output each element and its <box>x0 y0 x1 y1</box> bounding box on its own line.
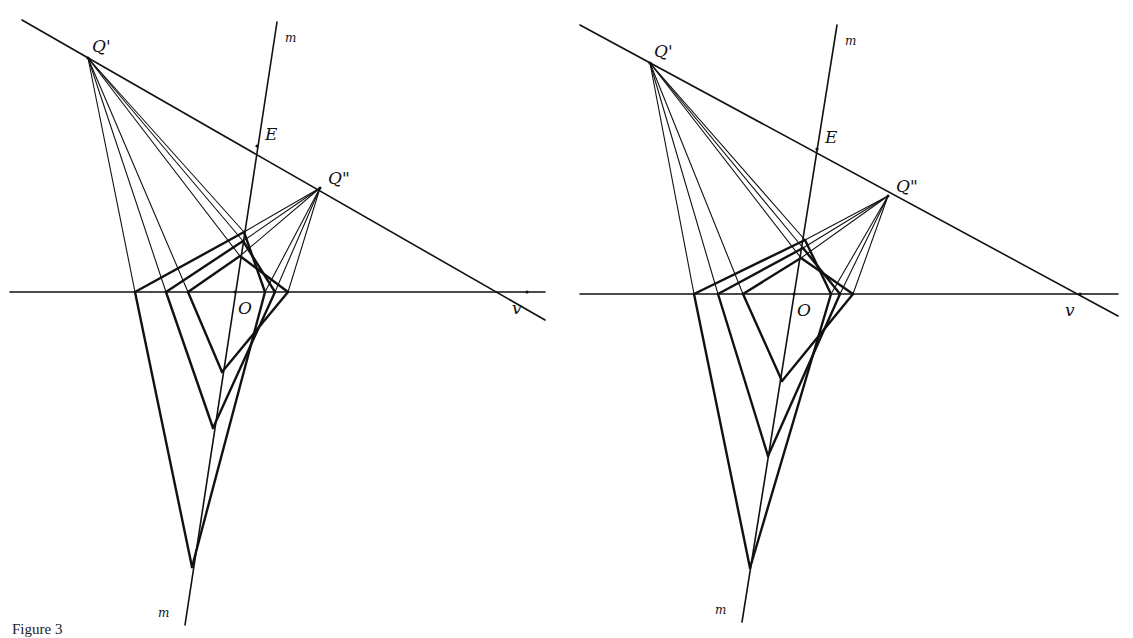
lower-edge <box>694 294 750 568</box>
ray-q1-upper <box>650 63 801 258</box>
square-edge <box>135 232 244 292</box>
figure-caption: Figure 3 <box>12 621 62 638</box>
lower-edge <box>743 294 782 381</box>
label-v: v <box>1065 300 1075 320</box>
label-e: E <box>264 124 278 144</box>
ray-q1-upper <box>88 58 244 232</box>
square-edge <box>243 241 275 292</box>
label-m-bottom: m <box>158 606 169 620</box>
ray-q1-left <box>650 63 694 294</box>
label-q1: Q' <box>654 41 673 61</box>
point-o <box>792 292 795 295</box>
label-e: E <box>824 127 838 147</box>
label-m-bottom: m <box>715 603 726 617</box>
label-m-top: m <box>845 34 856 48</box>
label-q2: Q" <box>896 176 918 196</box>
lower-edge <box>188 292 222 372</box>
ray-q1-upper <box>88 58 243 241</box>
label-q1: Q' <box>92 36 111 56</box>
panel-right: Q'Q"EOvmm <box>580 25 1118 622</box>
square-edge <box>801 258 853 294</box>
point-q2 <box>886 194 889 197</box>
diagonal-line <box>580 25 1118 316</box>
panel-left: Q'Q"EOvmm <box>10 20 545 625</box>
lower-edge <box>166 292 213 428</box>
ray-q2-upper <box>240 188 320 256</box>
point-q2 <box>318 186 321 189</box>
point-e <box>255 144 258 147</box>
label-o: O <box>797 300 811 320</box>
lower-edge <box>718 294 768 456</box>
ray-q1-left <box>88 58 188 292</box>
label-m-top: m <box>285 31 296 45</box>
point-e <box>815 147 818 150</box>
point-v <box>1078 292 1081 295</box>
ray-q1-left <box>650 63 718 294</box>
ray-q2-right <box>853 196 888 294</box>
point-q1 <box>648 61 651 64</box>
ray-q2-upper <box>801 196 888 258</box>
label-q2: Q" <box>328 168 350 188</box>
point-o <box>233 290 236 293</box>
ray-q1-upper <box>650 63 805 240</box>
lower-edge <box>135 292 192 567</box>
square-edge <box>718 248 803 294</box>
ray-q1-left <box>88 58 135 292</box>
diagonal-line <box>22 20 545 320</box>
ray-q1-upper <box>650 63 803 248</box>
label-v: v <box>512 298 522 318</box>
point-v <box>525 290 528 293</box>
point-q1 <box>86 56 89 59</box>
label-o: O <box>238 298 252 318</box>
ray-q1-left <box>88 58 166 292</box>
ray-q1-left <box>650 63 743 294</box>
lower-edge <box>222 292 288 372</box>
ray-q1-upper <box>88 58 240 256</box>
